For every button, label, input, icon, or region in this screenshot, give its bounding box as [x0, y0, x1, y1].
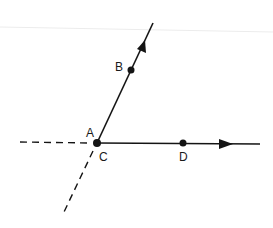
scan-artifact-line [0, 27, 273, 32]
dashed-extension-horizontal [20, 142, 92, 143]
dashed-extension-diagonal [64, 151, 93, 212]
label-d: D [179, 150, 188, 164]
ray-ab-arrowhead-icon [137, 40, 146, 53]
ray-cd-line [97, 143, 260, 144]
vertex-point-ac [93, 139, 101, 147]
label-a: A [86, 126, 94, 140]
point-b [128, 67, 135, 74]
point-d [180, 140, 187, 147]
ray-cd-arrowhead-icon [219, 139, 233, 149]
label-c: C [99, 150, 108, 164]
geometry-diagram: A B C D [0, 0, 273, 228]
label-b: B [115, 60, 123, 74]
